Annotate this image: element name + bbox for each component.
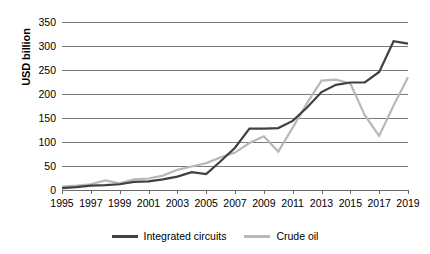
y-axis-tick-label: 350 — [22, 17, 56, 27]
x-axis-tick-mark — [177, 190, 178, 194]
x-axis-tick-mark — [91, 190, 92, 194]
x-axis-tick-mark — [322, 190, 323, 194]
x-axis-tick-mark — [120, 190, 121, 194]
x-axis-tick-mark — [206, 190, 207, 194]
x-axis-tick-mark — [350, 190, 351, 194]
y-axis-tick-label: 300 — [22, 41, 56, 51]
series-line-crude-oil — [62, 77, 408, 186]
y-axis-tick-label: 0 — [22, 185, 56, 195]
series-layer — [62, 22, 408, 190]
x-axis-tick-mark — [293, 190, 294, 194]
legend-line-swatch-icon — [112, 235, 138, 238]
x-axis-tick-mark — [379, 190, 380, 194]
x-axis-tick-mark — [408, 190, 409, 194]
x-axis-tick-mark — [62, 190, 63, 194]
y-axis-tick-label: 150 — [22, 113, 56, 123]
x-axis-tick-mark — [149, 190, 150, 194]
x-axis-tick-mark — [264, 190, 265, 194]
legend-label: Crude oil — [276, 231, 318, 242]
x-axis-tick-label: 2019 — [391, 198, 425, 209]
legend-item[interactable]: Crude oil — [244, 231, 318, 242]
chart-legend: Integrated circuitsCrude oil — [0, 231, 430, 242]
x-axis-tick-mark — [235, 190, 236, 194]
y-axis-tick-label: 200 — [22, 89, 56, 99]
y-axis-tick-label: 250 — [22, 65, 56, 75]
line-chart: USD billion 050100150200250300350 199519… — [0, 0, 430, 254]
legend-item[interactable]: Integrated circuits — [112, 231, 227, 242]
y-axis-tick-label: 100 — [22, 137, 56, 147]
series-line-integrated-circuits — [62, 41, 408, 188]
plot-area — [62, 22, 408, 190]
y-axis-tick-label: 50 — [22, 161, 56, 171]
legend-line-swatch-icon — [244, 235, 270, 238]
legend-label: Integrated circuits — [144, 231, 227, 242]
